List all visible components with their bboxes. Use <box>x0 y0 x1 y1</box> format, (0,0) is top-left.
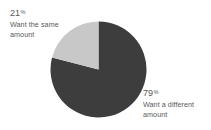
callout-want-different-line-2: amount <box>143 110 194 120</box>
pie-chart-svg <box>50 21 147 118</box>
callout-want-same-line-1: Want the same <box>10 20 59 30</box>
callout-want-different: 79% Want a different amount <box>143 86 194 121</box>
percent-value-want-different: 79 <box>143 88 153 98</box>
percent-sign-want-different: % <box>153 89 158 95</box>
percent-label-want-same: 21% <box>10 6 59 19</box>
callout-want-same-line-2: amount <box>10 30 59 40</box>
percent-label-want-different: 79% <box>143 86 194 99</box>
callout-want-different-line-1: Want a different <box>143 100 194 110</box>
pie-chart <box>50 21 147 118</box>
chart-canvas: 21% Want the same amount 79% Want a diff… <box>0 0 211 130</box>
percent-value-want-same: 21 <box>10 8 20 18</box>
percent-sign-want-same: % <box>20 9 25 15</box>
callout-want-same: 21% Want the same amount <box>10 6 59 41</box>
